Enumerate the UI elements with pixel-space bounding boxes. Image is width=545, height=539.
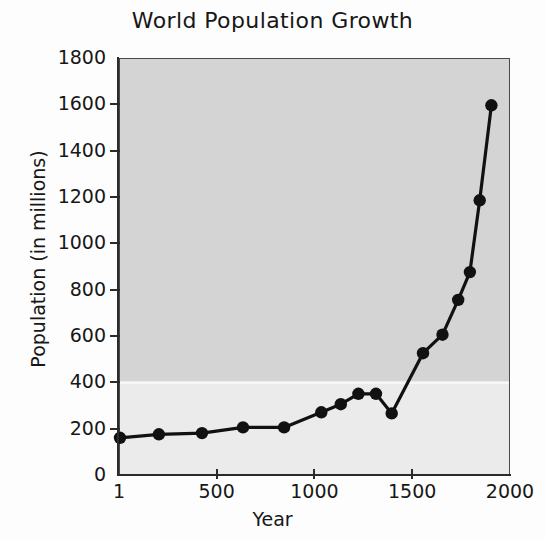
y-tick-label-800: 800 — [44, 280, 106, 299]
x-tick-label-1500: 1500 — [372, 481, 452, 501]
data-point-marker — [386, 407, 398, 419]
y-tick-1400 — [110, 150, 120, 152]
y-tick-600 — [110, 335, 120, 337]
y-tick-label-1200: 1200 — [44, 187, 106, 206]
y-tick-label-600: 600 — [44, 326, 106, 345]
data-point-marker — [452, 294, 464, 306]
y-axis-title: Population (in millions) — [27, 109, 49, 409]
data-point-marker — [153, 428, 165, 440]
x-tick-label-1: 1 — [79, 481, 159, 501]
chart-title: World Population Growth — [0, 8, 545, 33]
y-tick-label-1800: 1800 — [44, 48, 106, 67]
x-tick-label-2000: 2000 — [470, 481, 545, 501]
y-tick-label-200: 200 — [44, 419, 106, 438]
y-tick-1000 — [110, 242, 120, 244]
x-axis-title: Year — [0, 508, 545, 530]
population-series — [120, 59, 511, 476]
chart-figure: World Population Growth 0200400600800100… — [0, 0, 545, 539]
y-tick-label-400: 400 — [44, 372, 106, 391]
y-tick-200 — [110, 428, 120, 430]
series-line — [120, 105, 491, 438]
y-tick-400 — [110, 381, 120, 383]
y-tick-label-1400: 1400 — [44, 141, 106, 160]
data-point-marker — [436, 329, 448, 341]
y-tick-label-1000: 1000 — [44, 233, 106, 252]
x-tick-500 — [216, 469, 218, 479]
data-point-marker — [335, 398, 347, 410]
data-point-marker — [196, 427, 208, 439]
y-tick-800 — [110, 289, 120, 291]
y-tick-label-1600: 1600 — [44, 94, 106, 113]
data-point-marker — [352, 388, 364, 400]
x-tick-1000 — [313, 469, 315, 479]
data-point-marker — [485, 99, 497, 111]
data-point-marker — [237, 421, 249, 433]
data-point-marker — [474, 194, 486, 206]
plot-area — [119, 58, 510, 475]
data-point-marker — [114, 432, 126, 444]
data-point-marker — [464, 266, 476, 278]
data-point-marker — [370, 388, 382, 400]
y-tick-1200 — [110, 196, 120, 198]
x-tick-label-1000: 1000 — [274, 481, 354, 501]
y-tick-1600 — [110, 103, 120, 105]
data-point-marker — [278, 421, 290, 433]
x-tick-1500 — [411, 469, 413, 479]
data-point-marker — [315, 406, 327, 418]
y-axis-line — [117, 57, 119, 476]
data-point-marker — [417, 347, 429, 359]
x-tick-label-500: 500 — [177, 481, 257, 501]
